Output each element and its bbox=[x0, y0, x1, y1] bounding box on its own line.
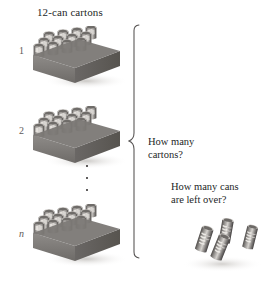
question-cartons-line-1: How many bbox=[148, 135, 194, 148]
question-leftover-line-1: How many cans bbox=[171, 180, 239, 193]
question-how-many-cans-left-over: How many cans are left over? bbox=[171, 180, 239, 206]
carton-index-2: 2 bbox=[19, 125, 24, 136]
carton-illustration bbox=[30, 204, 128, 266]
carton-illustration bbox=[30, 106, 128, 168]
leftover-cans-illustration bbox=[178, 214, 264, 276]
carton-box-n bbox=[30, 204, 128, 266]
carton-box-1 bbox=[30, 26, 128, 88]
ellipsis-dot bbox=[86, 189, 88, 191]
question-cartons-line-2: cartons? bbox=[148, 148, 194, 161]
leftover-cans-group bbox=[178, 214, 264, 276]
question-how-many-cartons: How many cartons? bbox=[148, 135, 194, 161]
question-leftover-line-2: are left over? bbox=[171, 193, 239, 206]
carton-illustration bbox=[30, 26, 128, 88]
carton-index-n: n bbox=[19, 228, 24, 239]
figure-title: 12-can cartons bbox=[37, 6, 103, 18]
ellipsis-dot bbox=[86, 177, 88, 179]
carton-box-2 bbox=[30, 106, 128, 168]
brace-icon bbox=[128, 22, 146, 262]
vertical-ellipsis bbox=[84, 165, 90, 205]
carton-index-1: 1 bbox=[19, 45, 24, 56]
ellipsis-dot bbox=[86, 165, 88, 167]
grouping-brace bbox=[128, 22, 146, 262]
division-cartons-figure: 12-can cartons 1 bbox=[0, 0, 265, 283]
